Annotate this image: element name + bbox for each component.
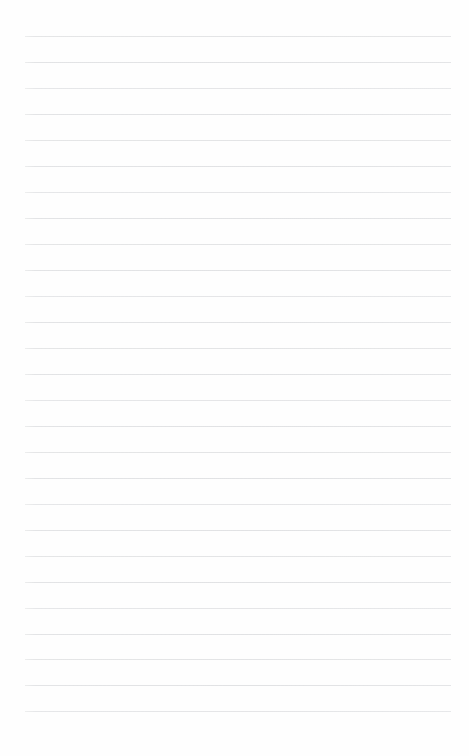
rule-line: [25, 218, 451, 219]
rule-line: [25, 192, 451, 193]
rule-line: [25, 400, 451, 401]
rule-line: [25, 582, 451, 583]
rule-line: [25, 504, 451, 505]
rule-line: [25, 114, 451, 115]
rule-line: [25, 685, 451, 686]
rule-line: [25, 244, 451, 245]
rule-line: [25, 426, 451, 427]
rule-line: [25, 62, 451, 63]
rule-line: [25, 374, 451, 375]
rule-line: [25, 556, 451, 557]
rule-line: [25, 166, 451, 167]
rule-line: [25, 711, 451, 712]
rule-line: [25, 88, 451, 89]
rule-line: [25, 452, 451, 453]
rule-line: [25, 270, 451, 271]
lined-paper-page: [0, 0, 469, 756]
rule-line: [25, 36, 451, 37]
rule-line: [25, 140, 451, 141]
rule-line: [25, 659, 451, 660]
rule-line: [25, 348, 451, 349]
rule-line: [25, 296, 451, 297]
rule-lines-group: [0, 0, 469, 756]
rule-line: [25, 634, 451, 635]
rule-line: [25, 530, 451, 531]
rule-line: [25, 478, 451, 479]
rule-line: [25, 608, 451, 609]
rule-line: [25, 322, 451, 323]
